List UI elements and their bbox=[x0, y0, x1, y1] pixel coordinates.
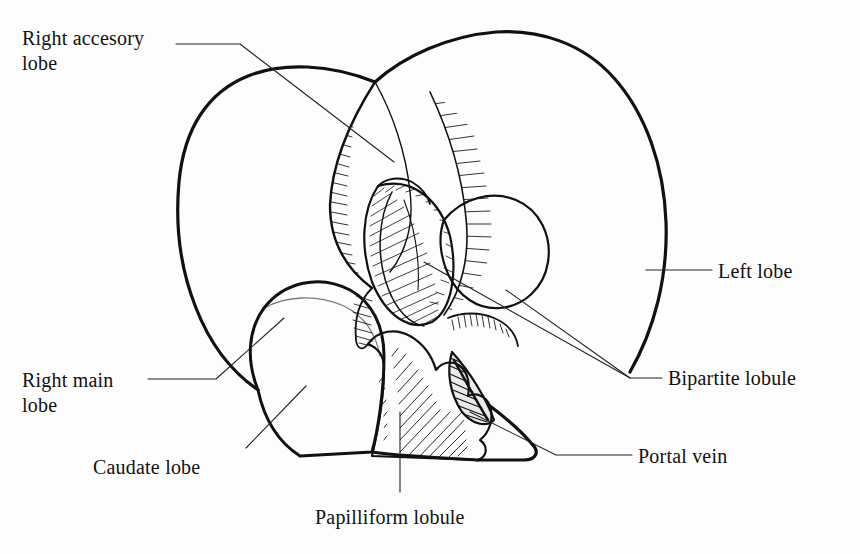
label-left-lobe: Left lobe bbox=[718, 259, 793, 284]
diagram-artwork bbox=[148, 32, 712, 492]
caudate-lobe-outline bbox=[250, 282, 384, 456]
right-accesory-lobe-outline bbox=[330, 82, 375, 288]
label-bipartite-lobule: Bipartite lobule bbox=[668, 366, 796, 391]
label-right-main-lobe: Right main lobe bbox=[22, 368, 113, 418]
left-lobe-fold-hatching bbox=[434, 100, 491, 313]
right-main-lobe-outline bbox=[178, 67, 375, 390]
label-right-accesory-lobe: Right accesory lobe bbox=[22, 26, 144, 76]
label-portal-vein: Portal vein bbox=[638, 444, 727, 469]
leader-caudate-lobe bbox=[246, 386, 306, 448]
leader-bipartite-lobule-b bbox=[506, 290, 630, 378]
label-papilliform-lobule: Papilliform lobule bbox=[315, 505, 465, 530]
label-caudate-lobe: Caudate lobe bbox=[93, 455, 200, 480]
hilar-groove-hatching bbox=[452, 314, 509, 337]
leader-lines bbox=[148, 44, 712, 492]
accesory-lobe-hatching bbox=[321, 120, 369, 293]
bipartite-lobule-outline bbox=[364, 184, 453, 325]
